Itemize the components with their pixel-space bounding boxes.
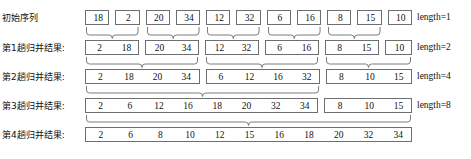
merge-brace (86, 86, 319, 97)
row-label-4: 第4趟归并结果: (2, 130, 65, 141)
sequence-value: 20 (232, 101, 261, 111)
sequence-value: 10 (389, 13, 413, 23)
sequence-group-box: 6 (267, 10, 291, 25)
length-label-2: length=4 (417, 71, 451, 82)
sequence-value: 34 (177, 13, 201, 23)
sequence-value: 32 (292, 72, 321, 82)
sequence-group-box: 20 (146, 10, 170, 25)
sequence-value: 18 (115, 72, 144, 82)
length-label-0: length=1 (417, 12, 451, 23)
sequence-value: 8 (327, 72, 356, 82)
sequence-value: 16 (298, 13, 322, 23)
sequence-group-box: 34 (176, 10, 200, 25)
sequence-value: 10 (175, 130, 205, 140)
sequence-value: 10 (355, 101, 384, 111)
merge-sort-diagram: 初始序列length=11822034123261681510第1趟归并结果:l… (0, 0, 471, 159)
sequence-value: 8 (328, 13, 352, 23)
sequence-value: 6 (207, 72, 236, 82)
sequence-value: 8 (325, 101, 354, 111)
sequence-value: 20 (146, 43, 173, 53)
sequence-value: 16 (174, 101, 203, 111)
sequence-value: 16 (264, 130, 294, 140)
row-label-2: 第2趟归并结果: (2, 72, 65, 83)
sequence-value: 10 (386, 43, 413, 53)
merge-brace (207, 27, 260, 39)
length-label-1: length=2 (417, 42, 451, 53)
sequence-value: 34 (173, 43, 200, 53)
sequence-group-box: 16 (297, 10, 321, 25)
sequence-value: 15 (353, 43, 380, 53)
sequence-value: 2 (116, 13, 140, 23)
sequence-value: 15 (235, 130, 265, 140)
merge-brace (206, 57, 318, 68)
sequence-value: 2 (86, 130, 116, 140)
sequence-value: 8 (326, 43, 353, 53)
sequence-value: 2 (86, 72, 115, 82)
sequence-group-box: 12 (206, 10, 230, 25)
sequence-group-box: 10 (388, 10, 412, 25)
sequence-value: 20 (147, 13, 171, 23)
sequence-value: 34 (172, 72, 201, 82)
sequence-value: 18 (294, 130, 324, 140)
row-label-0: 初始序列 (2, 13, 38, 24)
sequence-value: 20 (324, 130, 354, 140)
sequence-group-box: 815 (325, 40, 379, 55)
sequence-value: 32 (354, 130, 384, 140)
sequence-group-box: 616 (265, 40, 319, 55)
sequence-group-box: 2 (115, 10, 139, 25)
sequence-value: 6 (115, 101, 144, 111)
sequence-group-box: 15 (357, 10, 381, 25)
sequence-group-box: 2034 (145, 40, 199, 55)
sequence-group-box: 2681012151618203234 (85, 127, 412, 142)
merge-brace (86, 57, 198, 68)
sequence-value: 2 (86, 43, 113, 53)
sequence-value: 15 (358, 13, 382, 23)
sequence-group-box: 10 (385, 40, 412, 55)
sequence-value: 32 (233, 43, 260, 53)
sequence-group-box: 6121632 (206, 69, 321, 84)
row-label-1: 第1趟归并结果: (2, 43, 65, 54)
sequence-value: 32 (261, 101, 290, 111)
sequence-group-box: 32 (236, 10, 260, 25)
sequence-group-box: 81015 (326, 69, 412, 84)
sequence-group-box: 81015 (324, 98, 412, 113)
sequence-value: 6 (266, 43, 293, 53)
sequence-value: 12 (144, 101, 173, 111)
sequence-value: 12 (207, 13, 231, 23)
sequence-value: 2 (86, 101, 115, 111)
sequence-value: 12 (206, 43, 233, 53)
length-label-3: length=8 (417, 100, 451, 111)
sequence-value: 8 (145, 130, 175, 140)
sequence-value: 12 (235, 72, 264, 82)
sequence-value: 32 (237, 13, 261, 23)
sequence-value: 15 (384, 101, 413, 111)
sequence-value: 10 (356, 72, 385, 82)
sequence-group-box: 218 (85, 40, 139, 55)
sequence-value: 18 (113, 43, 140, 53)
merge-brace (86, 115, 411, 126)
sequence-value: 6 (268, 13, 292, 23)
sequence-value: 20 (143, 72, 172, 82)
sequence-group-box: 8 (327, 10, 351, 25)
row-label-3: 第3趟归并结果: (2, 101, 65, 112)
sequence-value: 18 (203, 101, 232, 111)
sequence-value: 34 (383, 130, 413, 140)
merge-brace (268, 27, 321, 39)
sequence-group-box: 1232 (205, 40, 259, 55)
merge-brace (328, 27, 381, 39)
sequence-value: 16 (293, 43, 320, 53)
sequence-group-box: 26121618203234 (85, 98, 318, 113)
sequence-group-box: 18 (85, 10, 109, 25)
sequence-value: 15 (384, 72, 413, 82)
sequence-value: 6 (116, 130, 146, 140)
sequence-value: 18 (86, 13, 110, 23)
sequence-value: 34 (290, 101, 319, 111)
sequence-group-box: 2182034 (85, 69, 200, 84)
sequence-value: 16 (264, 72, 293, 82)
merge-brace (147, 27, 200, 39)
merge-brace (326, 57, 411, 68)
merge-brace (86, 27, 139, 39)
sequence-value: 12 (205, 130, 235, 140)
